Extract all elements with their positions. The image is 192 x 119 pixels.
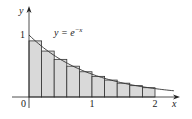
y-tick-1: 1: [20, 29, 25, 40]
rectangle-1: [29, 41, 42, 97]
x-tick-1: 1: [90, 98, 95, 109]
rectangle-10: [142, 88, 155, 97]
riemann-rectangles: [29, 41, 155, 97]
curve-label-exponent: −x: [75, 26, 84, 34]
y-axis-label: y: [18, 5, 24, 16]
rectangle-8: [117, 83, 130, 97]
rectangle-3: [54, 59, 67, 97]
curve-label: y = e−x: [53, 26, 83, 38]
rectangle-9: [130, 86, 143, 97]
x-tick-2: 2: [153, 98, 158, 109]
rectangle-7: [105, 80, 118, 97]
x-axis-label: x: [171, 98, 177, 109]
rectangle-2: [42, 51, 55, 97]
chart: 0 1 2 1 x y y = e−x: [0, 0, 192, 119]
rectangle-4: [67, 66, 80, 97]
x-tick-0: 0: [21, 98, 26, 109]
rectangle-6: [92, 76, 105, 97]
rectangle-5: [79, 72, 92, 97]
